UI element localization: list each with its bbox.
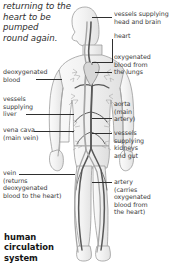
label-vessels-liver: vessels supplying liver — [3, 95, 61, 118]
label-vessels-kidneys-gut: vessels supplying kidneys and gut — [114, 129, 176, 159]
label-deoxygenated-blood: deoxygenated blood — [3, 68, 61, 83]
label-oxygenated-blood-lungs: oxygenated blood from the lungs — [114, 53, 176, 76]
leader-heart — [112, 39, 113, 62]
label-artery: artery (carries oxygenated blood from th… — [114, 178, 176, 216]
leader-artery — [92, 182, 112, 183]
leader-heart-h — [92, 62, 113, 63]
label-vein: vein (returns deoxygenated blood to the … — [3, 169, 79, 199]
label-aorta: aorta (main artery) — [114, 100, 176, 123]
label-vena-cava: vena cava (main vein) — [3, 126, 61, 141]
label-vessels-head-brain: vessels supplying head and brain — [114, 10, 176, 25]
leader-aorta — [92, 118, 112, 119]
leader-vessels-head-brain — [92, 17, 112, 18]
circulation-diagram-page: returning to the heart to be pumped roun… — [0, 0, 177, 266]
label-heart: heart — [114, 32, 176, 40]
leader-vessels-kidneys-gut — [92, 133, 112, 134]
leader-oxygenated-lungs — [95, 72, 112, 73]
